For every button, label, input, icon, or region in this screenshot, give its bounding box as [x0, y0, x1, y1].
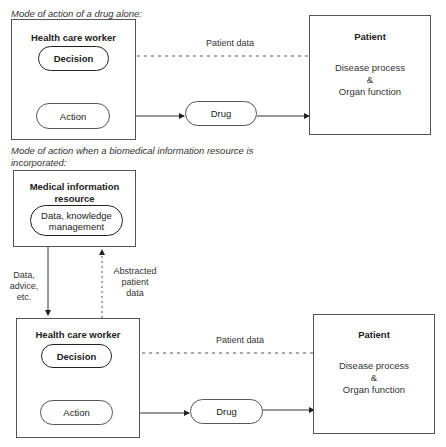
caption-drug-alone: Mode of action of a drug alone: [11, 8, 142, 19]
abstracted-line1: Abstracted [110, 266, 160, 277]
abstracted-patient-data-label: Abstracted patient data [110, 266, 160, 299]
patient-ampersand: & [310, 74, 430, 86]
patient-ampersand-bottom: & [314, 372, 434, 384]
patient-organ-function-bottom: Organ function [314, 384, 434, 396]
medical-info-resource-title-2: resource [14, 193, 135, 205]
data-advice-line1: Data, [4, 270, 44, 281]
decision-node-bottom: Decision [41, 344, 112, 368]
decision-node-top: Decision [38, 46, 109, 71]
caption-info-resource-line2: incorporated: [11, 157, 66, 168]
abstracted-line3: data [110, 288, 160, 299]
drug-node-bottom: Drug [190, 399, 263, 424]
drug-node-top: Drug [185, 101, 257, 126]
patient-disease-process: Disease process [310, 62, 430, 74]
patient-organ-function: Organ function [310, 86, 430, 98]
patient-data-label-bottom: Patient data [190, 335, 290, 346]
health-care-worker-title-bottom: Health care worker [17, 329, 139, 340]
patient-disease-process-bottom: Disease process [314, 360, 434, 372]
patient-box-top: Patient Disease process & Organ function [309, 15, 431, 135]
patient-title-bottom: Patient [314, 329, 434, 340]
action-node-top: Action [36, 103, 110, 129]
patient-box-bottom: Patient Disease process & Organ function [313, 314, 435, 434]
data-knowledge-management-node: Data, knowledge management [30, 205, 123, 236]
health-care-worker-title: Health care worker [12, 32, 135, 43]
dkm-line2: management [49, 221, 104, 232]
medical-info-resource-title-1: Medical information [14, 181, 135, 193]
dkm-line1: Data, knowledge [41, 210, 112, 221]
abstracted-line2: patient [110, 277, 160, 288]
patient-title: Patient [310, 31, 430, 42]
caption-info-resource-line1: Mode of action when a biomedical informa… [11, 145, 253, 156]
patient-data-label-top: Patient data [180, 38, 280, 49]
data-advice-line2: advice, [4, 281, 44, 292]
data-advice-line3: etc. [4, 292, 44, 303]
data-advice-label: Data, advice, etc. [4, 270, 44, 303]
action-node-bottom: Action [40, 400, 113, 425]
